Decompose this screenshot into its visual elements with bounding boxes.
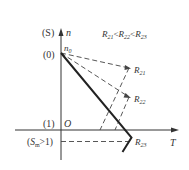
origin-label: O [64,118,71,129]
x-axis-arrow-icon [171,128,179,133]
drop-r21 [100,68,129,130]
line-r23 [61,53,132,152]
tick-sm-label: (Sm>1) [27,137,53,148]
relation-label: R21<R22<R23 [101,29,147,40]
tick-0-label: (0) [43,49,55,61]
tick-1-label: (1) [43,118,55,130]
r21-arrow-icon [125,65,132,70]
r23-label: R23 [134,137,147,148]
y-axis-label: n [66,27,71,38]
x-axis-label: T [170,137,177,148]
phase-diagram: (S) n n0 (0) (1) O (Sm>1) T R21 R22 R23 … [0,0,189,170]
n0-label: n0 [64,43,72,54]
r21-label: R21 [133,65,146,76]
y-axis-paren-label: (S) [42,27,54,39]
r22-label: R22 [133,94,146,105]
y-axis-arrow-icon [59,28,64,36]
